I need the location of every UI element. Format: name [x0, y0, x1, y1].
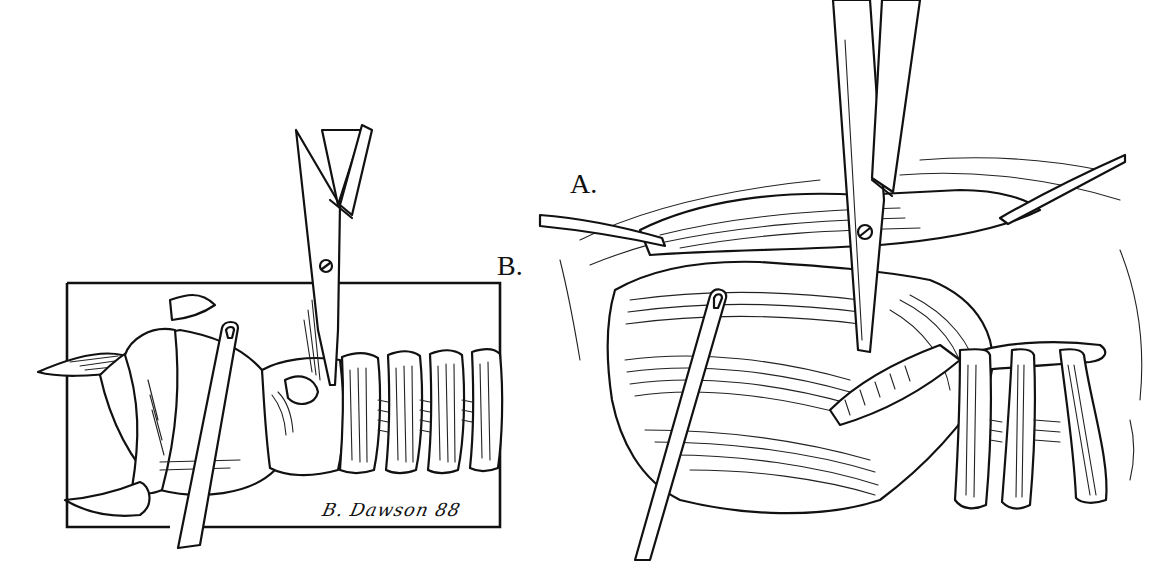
- tracheal-rings-b: [340, 349, 502, 473]
- surgical-illustration: B. A. B. Dawson 88: [0, 0, 1159, 582]
- artist-signature: B. Dawson 88: [321, 499, 463, 520]
- superior-horn: [170, 295, 215, 320]
- upper-muscle: [640, 190, 1040, 255]
- lower-horn: [65, 482, 149, 516]
- scissors-b: [296, 125, 372, 385]
- panel-b-drawing: [38, 125, 502, 548]
- line-drawing: [0, 0, 1159, 582]
- retractor-right: [1000, 155, 1125, 224]
- panel-b-label: B.: [497, 252, 523, 280]
- panel-a-drawing: [540, 0, 1142, 560]
- panel-a-label: A.: [570, 170, 597, 198]
